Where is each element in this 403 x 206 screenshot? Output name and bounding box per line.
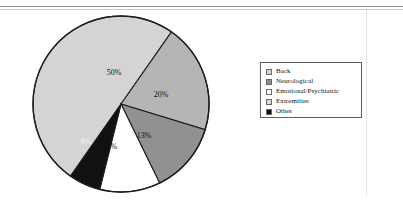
page-rule-top (0, 6, 403, 7)
pie-slice-value-label: 11% (103, 142, 118, 151)
legend-item[interactable]: Emotional/Psychiatric (266, 87, 361, 97)
legend-swatch-icon (266, 99, 272, 105)
legend-item-label: Back (276, 67, 291, 76)
legend-item[interactable]: Extremities (266, 97, 361, 107)
legend-item[interactable]: Neurological (266, 77, 361, 87)
legend-item-label: Extremities (276, 97, 309, 106)
pie-chart-svg: 50%20%13%11%6% (31, 14, 211, 194)
legend-item-label: Other (276, 107, 292, 116)
legend-item-label: Neurological (276, 77, 313, 86)
legend-swatch-icon (266, 69, 272, 75)
chart-legend: Back Neurological Emotional/Psychiatric … (260, 62, 362, 118)
legend-swatch-icon (266, 79, 272, 85)
pie-slices (33, 16, 209, 192)
legend-item[interactable]: Other (266, 107, 361, 117)
legend-swatch-icon (266, 109, 272, 115)
figure-area: 50%20%13%11%6% Back Neurological Emotion… (0, 10, 403, 206)
pie-slice-value-label: 50% (107, 68, 122, 77)
pie-slice-value-label: 13% (137, 131, 152, 140)
legend-item[interactable]: Back (266, 67, 361, 77)
legend-swatch-icon (266, 89, 272, 95)
pie-slice-value-label: 20% (154, 90, 169, 99)
legend-item-label: Emotional/Psychiatric (276, 87, 339, 96)
pie-slice-value-label: 6% (81, 137, 92, 146)
pie-chart: 50%20%13%11%6% (31, 14, 211, 194)
